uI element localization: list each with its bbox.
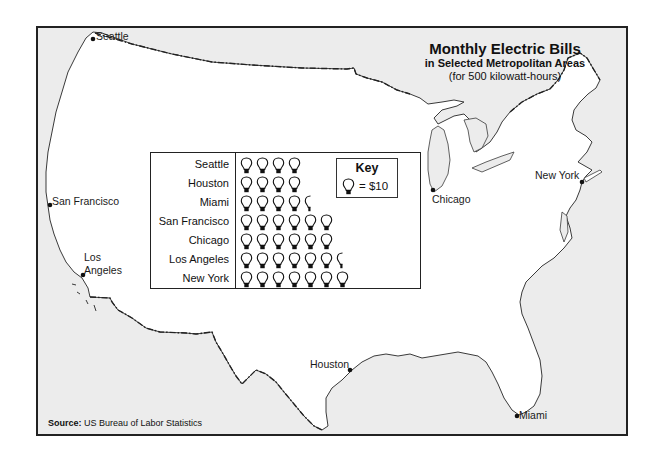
lightbulb-icon xyxy=(304,271,317,288)
lightbulb-icon xyxy=(336,271,349,288)
title-block: Monthly Electric Bills in Selected Metro… xyxy=(380,40,630,83)
row-label: Chicago xyxy=(189,234,229,246)
city-label-new-york: New York xyxy=(535,169,579,181)
lightbulb-icon xyxy=(272,176,285,193)
lightbulb-icon xyxy=(272,252,285,269)
key-box: Key = $10 xyxy=(336,158,398,198)
lightbulb-icon xyxy=(240,157,253,174)
lightbulb-icon xyxy=(288,195,301,212)
bulb-group xyxy=(240,157,301,174)
lightbulb-icon xyxy=(256,214,269,231)
half-lightbulb-icon xyxy=(336,252,349,269)
row-label: San Francisco xyxy=(159,215,229,227)
key-title: Key xyxy=(337,161,397,175)
lightbulb-icon xyxy=(272,233,285,250)
row-label: Miami xyxy=(200,196,229,208)
lightbulb-icon xyxy=(256,233,269,250)
pictograph-row: San Francisco xyxy=(151,213,420,232)
lightbulb-icon xyxy=(256,195,269,212)
bulb-group xyxy=(240,233,333,250)
bulb-group xyxy=(240,195,317,212)
city-label-los-angeles-line1: Los xyxy=(84,251,101,263)
lightbulb-icon xyxy=(342,178,355,195)
lightbulb-icon xyxy=(320,214,333,231)
pictograph-row: New York xyxy=(151,270,420,289)
lightbulb-icon xyxy=(272,214,285,231)
row-label: New York xyxy=(183,272,229,284)
lightbulb-icon xyxy=(272,271,285,288)
lightbulb-icon xyxy=(272,157,285,174)
source-note: Source: US Bureau of Labor Statistics xyxy=(48,418,202,428)
bulb-group xyxy=(240,252,349,269)
map-note: (for 500 kilowatt-hours) xyxy=(380,70,630,83)
lightbulb-icon xyxy=(288,214,301,231)
city-label-san-francisco: San Francisco xyxy=(52,195,119,207)
lightbulb-icon xyxy=(256,271,269,288)
row-label: Los Angeles xyxy=(169,253,229,265)
lightbulb-icon xyxy=(304,252,317,269)
source-label: Source: xyxy=(48,418,82,428)
pictograph-row: Chicago xyxy=(151,232,420,251)
lightbulb-icon xyxy=(256,252,269,269)
city-label-houston: Houston xyxy=(310,358,349,370)
city-label-chicago: Chicago xyxy=(432,193,471,205)
lightbulb-icon xyxy=(288,233,301,250)
bulb-group xyxy=(240,271,349,288)
lightbulb-icon xyxy=(272,195,285,212)
city-dot-chicago[interactable] xyxy=(431,188,436,193)
city-label-los-angeles-line2: Angeles xyxy=(84,264,122,276)
map-subtitle: in Selected Metropolitan Areas xyxy=(380,57,630,70)
lightbulb-icon xyxy=(240,214,253,231)
lightbulb-icon xyxy=(288,252,301,269)
map-title: Monthly Electric Bills xyxy=(380,40,630,57)
lightbulb-icon xyxy=(304,214,317,231)
lightbulb-icon xyxy=(288,271,301,288)
lightbulb-icon xyxy=(320,271,333,288)
key-value: = $10 xyxy=(359,180,388,192)
lightbulb-icon xyxy=(320,252,333,269)
lightbulb-icon xyxy=(288,157,301,174)
lightbulb-icon xyxy=(240,176,253,193)
source-text: US Bureau of Labor Statistics xyxy=(84,418,202,428)
city-dot-new-york[interactable] xyxy=(580,180,585,185)
bulb-group xyxy=(240,214,333,231)
row-label: Seattle xyxy=(195,158,229,170)
lightbulb-icon xyxy=(240,271,253,288)
lightbulb-icon xyxy=(288,176,301,193)
row-label: Houston xyxy=(188,177,229,189)
city-dot-seattle[interactable] xyxy=(91,37,96,42)
city-label-seattle: Seattle xyxy=(96,30,129,42)
lightbulb-icon xyxy=(256,157,269,174)
lightbulb-icon xyxy=(320,233,333,250)
bulb-group xyxy=(240,176,301,193)
lightbulb-icon xyxy=(240,195,253,212)
lightbulb-icon xyxy=(256,176,269,193)
pictograph-table: SeattleHoustonMiamiSan FranciscoChicagoL… xyxy=(150,152,421,289)
lightbulb-icon xyxy=(240,233,253,250)
lightbulb-icon xyxy=(240,252,253,269)
lightbulb-icon xyxy=(304,233,317,250)
pictograph-row: Los Angeles xyxy=(151,251,420,270)
city-label-miami: Miami xyxy=(519,409,547,421)
half-lightbulb-icon xyxy=(304,195,317,212)
